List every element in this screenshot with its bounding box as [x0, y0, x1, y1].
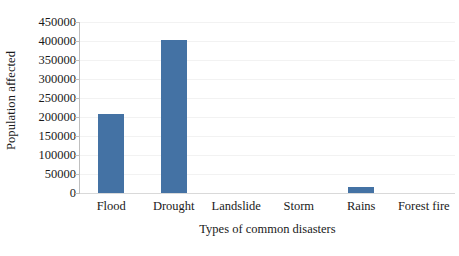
x-axis-line	[80, 193, 455, 194]
y-axis-tick-label: 250000	[22, 92, 76, 104]
bar[interactable]	[98, 114, 124, 193]
x-axis-tick-label: Storm	[268, 198, 331, 214]
y-axis-tick-label: 50000	[22, 168, 76, 180]
y-axis-tick-labels: 0500001000001500002000002500003000003500…	[22, 15, 76, 195]
x-axis-tick-label: Flood	[80, 198, 143, 214]
bar-slot	[393, 22, 456, 193]
bar-slot	[143, 22, 206, 193]
x-axis-tick-labels: FloodDroughtLandslideStormRainsForest fi…	[80, 198, 455, 218]
x-axis-tick-label: Forest fire	[393, 198, 456, 214]
y-axis-tickmark	[75, 60, 79, 61]
y-axis-tick-label: 100000	[22, 149, 76, 161]
y-axis-tick-label: 450000	[22, 16, 76, 28]
bar[interactable]	[348, 187, 374, 193]
y-axis-tickmark	[75, 193, 79, 194]
x-axis-tick-label: Landslide	[205, 198, 268, 214]
bar-chart: Population affected 05000010000015000020…	[0, 0, 459, 256]
bar-slot	[268, 22, 331, 193]
y-axis-tickmark	[75, 98, 79, 99]
y-axis-title-label: Population affected	[5, 50, 20, 149]
y-axis-tickmark	[75, 22, 79, 23]
x-axis-tick-label: Rains	[330, 198, 393, 214]
bars-layer	[80, 22, 455, 193]
y-axis-tick-label: 300000	[22, 73, 76, 85]
y-axis-tickmark	[75, 117, 79, 118]
y-axis-tick-label: 0	[22, 187, 76, 199]
y-axis-tickmark	[75, 41, 79, 42]
x-axis-title: Types of common disasters	[80, 222, 455, 237]
bar-slot	[205, 22, 268, 193]
y-axis-tick-label: 350000	[22, 54, 76, 66]
x-axis-tick-label: Drought	[143, 198, 206, 214]
y-axis-tick-label: 200000	[22, 111, 76, 123]
y-axis-tickmark	[75, 79, 79, 80]
y-axis-title: Population affected	[0, 0, 24, 200]
y-axis-tickmark	[75, 155, 79, 156]
bar-slot	[80, 22, 143, 193]
bar[interactable]	[161, 40, 187, 193]
y-axis-tickmark	[75, 174, 79, 175]
y-axis-tick-label: 400000	[22, 35, 76, 47]
y-axis-tickmark	[75, 136, 79, 137]
bar-slot	[330, 22, 393, 193]
y-axis-tick-label: 150000	[22, 130, 76, 142]
